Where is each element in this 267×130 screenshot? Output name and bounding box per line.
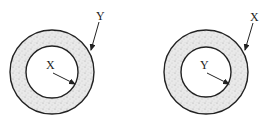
left-outer-label: Y [96,9,105,23]
right-outer-label: X [250,10,259,24]
left-outer-leader-arrow [91,22,99,50]
diagram-canvas: X Y Y X [0,0,267,130]
left-inner-label: X [46,58,55,72]
right-ring-figure: Y X [164,10,259,114]
diagram-svg: X Y Y X [0,0,267,130]
right-inner-label: Y [200,58,209,72]
right-outer-leader-arrow [245,23,253,50]
right-inner-core [181,47,231,97]
left-inner-core [26,46,78,98]
left-ring-figure: X Y [10,9,105,114]
